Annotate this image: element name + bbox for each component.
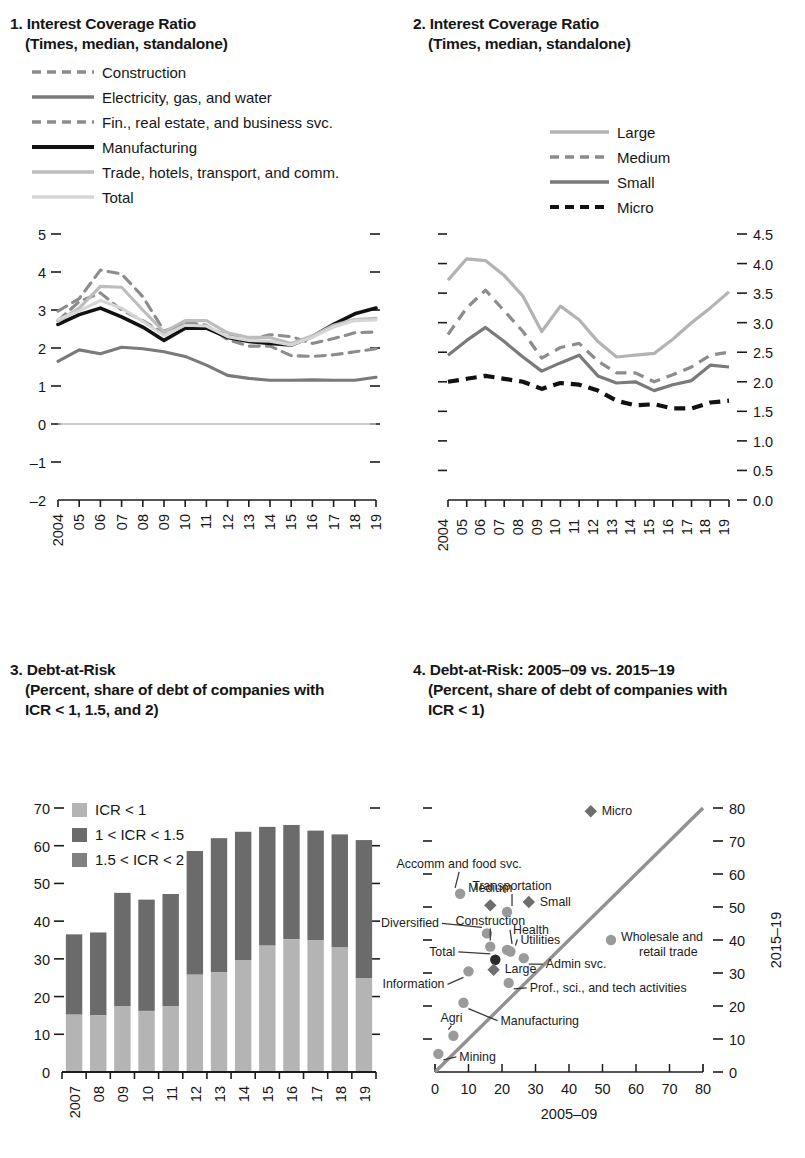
leader-line [515, 940, 517, 946]
y-tick-label: 20 [34, 990, 50, 1006]
x-tick-label: 19 [368, 514, 384, 530]
panel-1-series [58, 270, 376, 380]
x-tick-label: 14 [262, 514, 278, 530]
y-tick-label: 1.0 [753, 434, 773, 450]
x-tick-label: 16 [284, 1086, 300, 1102]
y-tick-label: 0 [729, 1065, 737, 1081]
bar-segment-lower [66, 1015, 82, 1072]
point-label: Utilities [520, 933, 560, 947]
legend-item: Electricity, gas, and water [32, 89, 272, 106]
panel-2-interest-coverage-ratio: 2. Interest Coverage Ratio (Times, media… [413, 14, 805, 614]
x-tick-label: 06 [92, 514, 108, 530]
legend-label: Medium [617, 149, 670, 166]
x-tick-label: 05 [454, 519, 470, 535]
panel-4-title-block: 4. Debt-at-Risk: 2005–09 vs. 2015–19 (Pe… [413, 660, 805, 720]
panel-4-x-labels: 01020304050607080 [431, 1064, 711, 1097]
legend-item: ICR < 1 [72, 801, 146, 818]
bar-segment-lower [211, 972, 227, 1072]
y-tick-label: 10 [729, 1032, 745, 1048]
x-tick-label: 40 [561, 1081, 577, 1097]
y-tick-label: 0.0 [753, 493, 773, 509]
x-tick-label: 09 [529, 519, 545, 535]
bar-segment-lower [138, 1011, 154, 1072]
x-tick-label: 15 [641, 519, 657, 535]
y-tick-label: 4 [38, 265, 46, 281]
x-tick-label: 10 [140, 1086, 156, 1102]
y-tick-label: 2.5 [753, 345, 773, 361]
point-label: Diversified [381, 916, 439, 930]
panel-2-number: 2. [413, 15, 426, 32]
bar-segment-upper [332, 834, 348, 947]
x-tick-label: 30 [527, 1081, 543, 1097]
legend-item: Manufacturing [32, 139, 197, 156]
panel-2-subtitle: (Times, median, standalone) [413, 34, 805, 54]
legend-item: Total [32, 189, 134, 206]
panel-3-x-labels: 2007080910111213141516171819 [62, 1072, 376, 1118]
x-tick-label: 08 [510, 519, 526, 535]
bar-segment-upper [187, 851, 203, 975]
y-tick-label: 4.5 [753, 227, 773, 243]
circle-marker [505, 946, 515, 956]
x-tick-label: 07 [491, 519, 507, 535]
panel-2-series [448, 259, 729, 409]
bar-segment-upper [283, 825, 299, 939]
point-label: Accomm and food svc. [396, 857, 521, 871]
point-label: Manufacturing [500, 1014, 579, 1028]
x-tick-label: 10 [460, 1081, 476, 1097]
point-label: Total [429, 945, 455, 959]
y-tick-label: 70 [729, 834, 745, 850]
y-tick-label: 0.5 [753, 463, 773, 479]
bar-segment-upper [90, 932, 106, 1015]
y-tick-label: 3.5 [753, 286, 773, 302]
leader-line [448, 1026, 451, 1030]
legend-label: Fin., real estate, and business svc. [102, 114, 333, 131]
panel-3-chart: 706050403020100ICR < 11 < ICR < 1.51.5 <… [10, 720, 400, 1140]
bar-segment-upper [162, 894, 178, 1006]
bar-segment-lower [356, 978, 372, 1072]
point-label: Transportation [472, 879, 552, 893]
x-tick-label: 2004 [435, 519, 451, 551]
legend-label: ICR < 1 [95, 801, 146, 818]
circle-marker [433, 1049, 443, 1059]
x-tick-label: 12 [220, 514, 236, 530]
x-tick-label: 2007 [67, 1086, 83, 1118]
point-label: Wholesale and [621, 930, 703, 944]
panel-4-points: MicroAccomm and food svc.MediumTransport… [381, 804, 703, 1064]
x-tick-label: 17 [309, 1086, 325, 1102]
leader-line [458, 952, 490, 954]
bar-segment-lower [235, 960, 251, 1072]
y-axis-title: 2015–19 [768, 912, 784, 968]
legend-label: Small [617, 174, 655, 191]
scatter-point: Mining [433, 1049, 496, 1064]
panel-2-title-block: 2. Interest Coverage Ratio (Times, media… [413, 14, 805, 54]
legend-swatch [72, 828, 87, 842]
x-tick-label: 50 [594, 1081, 610, 1097]
y-tick-label: 70 [34, 801, 50, 817]
x-tick-label: 17 [326, 514, 342, 530]
bar-segment-upper [307, 831, 323, 940]
legend-label: Trade, hotels, transport, and comm. [102, 164, 339, 181]
x-tick-label: 16 [660, 519, 676, 535]
point-label: Agri [440, 1011, 462, 1025]
x-tick-label: 19 [357, 1086, 373, 1102]
panel-4-subtitle-line-1: (Percent, share of debt of companies wit… [413, 680, 805, 700]
series-line [448, 290, 729, 382]
x-tick-label: 18 [697, 519, 713, 535]
legend-swatch [72, 803, 87, 817]
legend-label: Large [617, 124, 655, 141]
y-tick-label: 4.0 [753, 257, 773, 273]
bar-segment-lower [114, 1006, 130, 1072]
x-tick-label: 07 [114, 514, 130, 530]
series-line [58, 347, 376, 380]
panel-1-x-labels: 2004050607080910111213141516171819 [50, 500, 384, 546]
panel-2-legend: LargeMediumSmallMicro [550, 124, 670, 216]
point-label: Micro [602, 804, 632, 818]
circle-marker [485, 941, 495, 951]
legend-label: Electricity, gas, and water [102, 89, 272, 106]
point-label: Information [383, 977, 445, 991]
series-line [448, 259, 729, 357]
panel-2-title: Interest Coverage Ratio [430, 15, 599, 32]
scatter-point: Wholesale andretail trade [606, 930, 703, 959]
x-tick-label: 14 [622, 519, 638, 535]
panel-3-debt-at-risk: 3. Debt-at-Risk (Percent, share of debt … [10, 660, 400, 1140]
